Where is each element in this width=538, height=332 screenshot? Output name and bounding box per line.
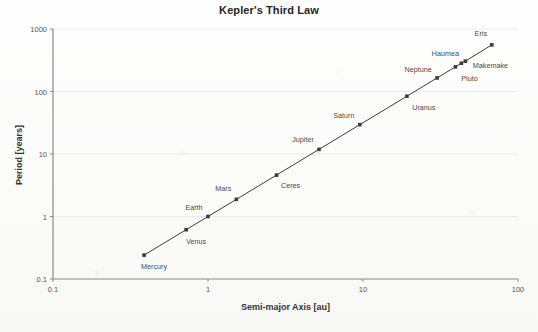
data-point-marker-pluto[interactable] xyxy=(454,65,458,69)
data-point-marker-eris[interactable] xyxy=(490,43,494,47)
data-point-marker-haumea[interactable] xyxy=(460,61,464,65)
point-label-uranus: Uranus xyxy=(412,103,435,112)
point-label-ceres: Ceres xyxy=(281,181,300,190)
data-point-marker-earth[interactable] xyxy=(206,215,210,219)
data-point-marker-mars[interactable] xyxy=(235,198,239,202)
y-tick-label-100: 100 xyxy=(0,87,47,96)
point-label-eris: Eris xyxy=(475,28,487,37)
x-tick-label-0.1: 0.1 xyxy=(48,285,58,294)
x-tick-label-1: 1 xyxy=(206,285,210,294)
data-point-marker-neptune[interactable] xyxy=(435,76,439,80)
data-point-marker-makemake[interactable] xyxy=(464,59,468,63)
data-point-marker-saturn[interactable] xyxy=(358,123,362,127)
data-point-marker-mercury[interactable] xyxy=(142,253,146,257)
point-label-venus: Venus xyxy=(186,236,206,245)
y-tick-label-10: 10 xyxy=(0,150,47,159)
point-label-makemake: Makemake xyxy=(473,61,508,70)
point-label-pluto: Pluto xyxy=(461,73,477,82)
x-tick-label-10: 10 xyxy=(359,285,367,294)
y-tick-label-1: 1 xyxy=(0,212,47,221)
x-tick-label-100: 100 xyxy=(512,285,525,294)
y-tick-label-1000: 1000 xyxy=(0,25,47,34)
point-label-haumea: Haumea xyxy=(432,49,459,58)
point-label-saturn: Saturn xyxy=(333,110,354,119)
point-label-neptune: Neptune xyxy=(405,64,432,73)
data-point-marker-jupiter[interactable] xyxy=(317,148,321,152)
data-point-marker-ceres[interactable] xyxy=(275,173,279,177)
kepler-third-law-chart: Kepler's Third Law Period [years] Semi-m… xyxy=(0,0,538,332)
point-label-mars: Mars xyxy=(215,184,231,193)
point-label-earth: Earth xyxy=(185,202,202,211)
data-point-marker-uranus[interactable] xyxy=(405,94,409,98)
y-tick-label-0.1: 0.1 xyxy=(0,275,47,284)
point-label-jupiter: Jupiter xyxy=(292,135,314,144)
data-point-marker-venus[interactable] xyxy=(184,228,188,232)
point-label-mercury: Mercury xyxy=(141,262,167,271)
